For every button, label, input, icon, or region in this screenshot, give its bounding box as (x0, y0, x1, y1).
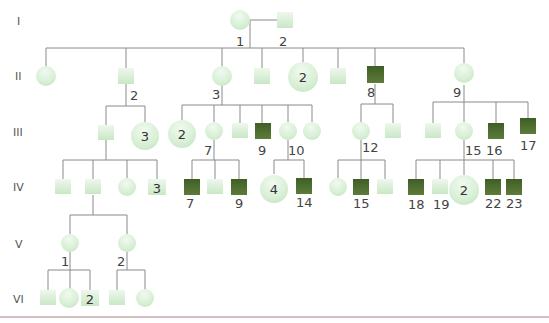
male-affected-symbol (488, 123, 504, 139)
male-unaffected-symbol (207, 179, 223, 194)
group-count: 2 (460, 183, 468, 198)
individual-number: 2 (279, 34, 287, 49)
group-count: 2 (86, 292, 94, 307)
female-unaffected-symbol (205, 122, 223, 140)
individual-number: 16 (486, 143, 503, 158)
individual-number: 7 (186, 196, 194, 211)
male-unaffected-symbol (254, 68, 270, 84)
female-unaffected-symbol (352, 122, 370, 140)
male-affected-symbol (353, 179, 369, 195)
gen-label-I: I (17, 15, 20, 28)
female-unaffected-symbol (329, 178, 347, 196)
female-unaffected-symbol (279, 122, 297, 140)
male-affected-symbol (367, 66, 384, 83)
individual-number: 9 (453, 85, 461, 100)
individual-number: 15 (465, 143, 482, 158)
male-unaffected-symbol (55, 179, 71, 194)
gen-label-III: III (13, 126, 23, 139)
individual-number: 18 (408, 197, 425, 212)
individual-number: 22 (485, 196, 502, 211)
female-unaffected-symbol (118, 178, 136, 196)
female-unaffected-symbol (212, 66, 232, 86)
individual-number: 17 (520, 138, 537, 153)
individual-number: 14 (296, 195, 313, 210)
individual-number: 8 (367, 85, 375, 100)
individual-number: 3 (212, 87, 220, 102)
group-count: 2 (299, 70, 307, 85)
male-affected-symbol (255, 123, 271, 139)
male-affected-symbol (296, 178, 312, 194)
female-unaffected-symbol (59, 288, 79, 308)
individual-number: 15 (353, 196, 370, 211)
male-unaffected-symbol (98, 125, 114, 140)
male-unaffected-symbol (425, 123, 441, 138)
male-affected-symbol (231, 179, 247, 195)
male-unaffected-symbol (277, 12, 293, 28)
male-affected-symbol (485, 179, 501, 195)
individual-number: 7 (204, 143, 212, 158)
female-unaffected-symbol (454, 63, 474, 83)
gen-label-V: V (15, 238, 23, 251)
individual-number: 23 (506, 196, 523, 211)
female-unaffected-symbol (230, 10, 250, 30)
individual-number: 2 (117, 254, 125, 269)
individual-number: 19 (433, 197, 450, 212)
male-unaffected-symbol (330, 68, 346, 84)
generation-labels: I II III IV V VI (13, 15, 24, 306)
gen-label-II: II (15, 70, 22, 83)
individual-number: 2 (130, 88, 138, 103)
individual-number: 1 (236, 34, 244, 49)
gen-label-IV: IV (13, 181, 24, 194)
group-count: 3 (141, 129, 149, 144)
male-unaffected-symbol (85, 179, 101, 194)
male-affected-symbol (506, 179, 522, 195)
group-count: 4 (270, 182, 278, 197)
male-unaffected-symbol (377, 179, 393, 194)
male-affected-symbol (184, 179, 200, 195)
individual-number: 1 (61, 254, 69, 269)
male-unaffected-symbol (385, 123, 401, 138)
female-unaffected-symbol (136, 289, 154, 307)
individual-number: 9 (235, 196, 243, 211)
group-count: 2 (178, 127, 186, 142)
individuals: 1 2 2 3 2 8 9 3 2 7 9 10 12 15 (36, 10, 537, 308)
female-unaffected-symbol (455, 122, 473, 140)
individual-number: 10 (288, 143, 305, 158)
individual-number: 12 (362, 140, 379, 155)
male-unaffected-symbol (232, 123, 248, 138)
female-unaffected-symbol (303, 122, 321, 140)
pedigree-lines (46, 20, 528, 291)
group-count: 3 (153, 181, 161, 196)
male-unaffected-symbol (118, 68, 134, 84)
pedigree-diagram: I II III IV V VI (0, 0, 549, 323)
male-affected-symbol (520, 118, 536, 134)
male-unaffected-symbol (432, 179, 448, 194)
male-unaffected-symbol (109, 290, 125, 305)
individual-number: 9 (258, 143, 266, 158)
female-unaffected-symbol (36, 66, 56, 86)
male-affected-symbol (408, 179, 424, 195)
male-unaffected-symbol (40, 290, 56, 305)
gen-label-VI: VI (13, 293, 24, 306)
female-unaffected-symbol (118, 234, 136, 252)
female-unaffected-symbol (61, 234, 79, 252)
